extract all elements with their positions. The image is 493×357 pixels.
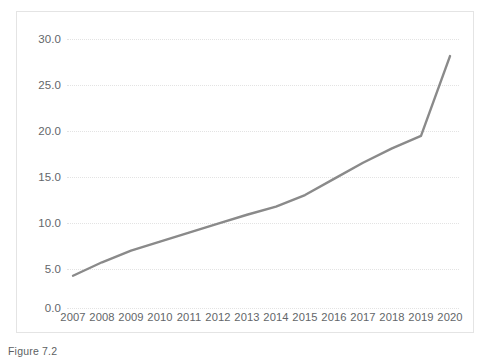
series-1-line <box>73 56 450 276</box>
figure-caption: Figure 7.2 <box>8 345 57 357</box>
plot-area: 30.0 25.0 20.0 15.0 10.0 5.0 0.0 2007 20… <box>17 12 475 334</box>
chart-frame: 30.0 25.0 20.0 15.0 10.0 5.0 0.0 2007 20… <box>16 11 474 333</box>
series-line-chart <box>17 12 475 334</box>
